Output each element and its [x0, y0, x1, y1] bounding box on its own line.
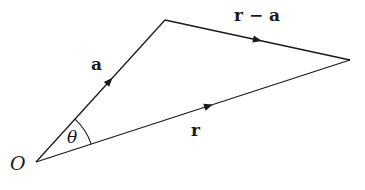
origin-label: O: [10, 152, 26, 174]
vector-r-minus-a-arrowhead-icon: [252, 36, 262, 43]
vector-r-label: r: [191, 120, 201, 140]
vector-r-arrowhead-icon: [203, 104, 213, 111]
vector-diagram: a r r − a θ O: [0, 0, 365, 190]
vector-r-minus-a-label: r − a: [234, 5, 280, 25]
angle-theta-arc: [75, 119, 91, 144]
vector-a-label: a: [91, 54, 102, 74]
angle-theta-label: θ: [67, 127, 77, 147]
